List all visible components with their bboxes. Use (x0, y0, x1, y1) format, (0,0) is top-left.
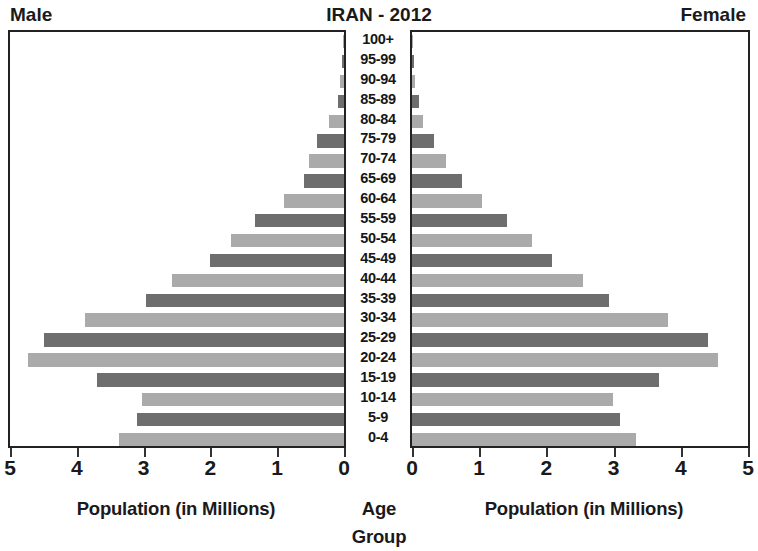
bar-row (412, 131, 748, 151)
bar-male-80-84 (329, 115, 344, 128)
age-group-label: 85-89 (346, 90, 410, 110)
bar-female-35-39 (412, 294, 609, 307)
bar-male-60-64 (284, 194, 344, 207)
age-group-label: 30-34 (346, 308, 410, 328)
bar-male-0-4 (119, 433, 344, 446)
male-axis-tick-label: 4 (62, 456, 92, 480)
bar-male-55-59 (255, 214, 345, 227)
bar-row (10, 112, 344, 132)
bar-row (412, 430, 748, 450)
bar-male-35-39 (146, 294, 344, 307)
bar-male-65-69 (304, 174, 344, 187)
male-axis-tick-label: 3 (129, 456, 159, 480)
bar-male-15-19 (97, 373, 344, 386)
male-axis-tick-label: 1 (262, 456, 292, 480)
age-group-label: 40-44 (346, 269, 410, 289)
bar-female-100plus (412, 35, 413, 48)
bar-male-30-34 (85, 313, 344, 326)
bar-male-70-74 (309, 154, 344, 167)
bar-female-5-9 (412, 413, 620, 426)
bar-female-15-19 (412, 373, 659, 386)
center-axis-caption: Age Group (344, 495, 414, 523)
bar-female-30-34 (412, 313, 668, 326)
bar-male-95-99 (342, 55, 344, 68)
left-axis-caption: Population (in Millions) (4, 495, 348, 523)
female-axis-tick-label: 3 (599, 456, 629, 480)
bar-row (412, 310, 748, 330)
male-plot-panel (8, 30, 346, 448)
bar-row (10, 131, 344, 151)
female-plot-panel (410, 30, 750, 448)
bar-female-95-99 (412, 55, 414, 68)
bar-row (412, 370, 748, 390)
bar-male-5-9 (137, 413, 344, 426)
bar-row (10, 410, 344, 430)
bar-row (412, 231, 748, 251)
bar-male-40-44 (172, 274, 344, 287)
bar-female-40-44 (412, 274, 583, 287)
bar-male-20-24 (28, 353, 344, 366)
age-group-label: 10-14 (346, 388, 410, 408)
bar-row (10, 271, 344, 291)
age-group-label: 5-9 (346, 408, 410, 428)
age-group-label: 60-64 (346, 189, 410, 209)
bar-row (412, 390, 748, 410)
bar-female-90-94 (412, 75, 415, 88)
bar-row (10, 430, 344, 450)
bar-female-0-4 (412, 433, 636, 446)
bar-row (10, 330, 344, 350)
bar-row (412, 191, 748, 211)
age-group-label: 65-69 (346, 169, 410, 189)
bar-row (412, 330, 748, 350)
female-axis-tick-label: 5 (733, 456, 758, 480)
bar-female-60-64 (412, 194, 482, 207)
bar-row (412, 410, 748, 430)
age-group-label: 90-94 (346, 70, 410, 90)
bar-row (412, 52, 748, 72)
female-axis-tick-label: 1 (464, 456, 494, 480)
age-group-axis: 100+95-9990-9485-8980-8475-7970-7465-696… (346, 30, 410, 448)
bar-male-100plus (343, 35, 344, 48)
bar-female-70-74 (412, 154, 446, 167)
right-axis-caption: Population (in Millions) (414, 495, 754, 523)
male-bar-group (10, 32, 344, 446)
age-group-label: 35-39 (346, 289, 410, 309)
bar-row (10, 370, 344, 390)
female-axis-tick-label: 4 (666, 456, 696, 480)
age-group-label: 100+ (346, 30, 410, 50)
female-x-axis: 012345 (410, 448, 750, 482)
age-group-label: 80-84 (346, 110, 410, 130)
bar-row (412, 211, 748, 231)
page-title: IRAN - 2012 (0, 2, 758, 28)
bar-male-75-79 (317, 134, 344, 147)
age-group-label: 25-29 (346, 328, 410, 348)
bar-row (10, 151, 344, 171)
male-axis-tick-label: 2 (195, 456, 225, 480)
bar-row (412, 251, 748, 271)
bar-row (412, 171, 748, 191)
bar-male-85-89 (338, 95, 344, 108)
age-group-label: 55-59 (346, 209, 410, 229)
bar-male-25-29 (44, 333, 344, 346)
bar-row (412, 151, 748, 171)
age-group-label: 45-49 (346, 249, 410, 269)
bar-row (10, 390, 344, 410)
bar-row (10, 52, 344, 72)
bar-row (10, 72, 344, 92)
bar-male-90-94 (340, 75, 344, 88)
age-group-label: 20-24 (346, 348, 410, 368)
female-axis-tick-label: 0 (397, 456, 427, 480)
bar-female-20-24 (412, 353, 718, 366)
bar-female-85-89 (412, 95, 419, 108)
bar-female-75-79 (412, 134, 434, 147)
bar-row (10, 350, 344, 370)
bar-row (412, 72, 748, 92)
bar-row (10, 92, 344, 112)
bar-row (10, 251, 344, 271)
female-side-label: Female (681, 2, 746, 28)
bar-male-45-49 (210, 254, 344, 267)
bar-male-10-14 (142, 393, 344, 406)
bar-row (10, 211, 344, 231)
age-group-label: 75-79 (346, 129, 410, 149)
